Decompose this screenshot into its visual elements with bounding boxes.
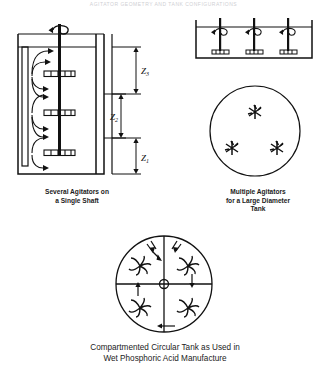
dimension-z3 [112, 47, 141, 94]
figure-several-agitators-single-shaft: Z3 Z2 Z1 [8, 14, 158, 184]
star-impeller-top [248, 105, 261, 119]
outlet-nozzle-icon [172, 241, 181, 253]
baffle [22, 47, 28, 166]
dimension-z1 [112, 138, 141, 174]
agitator-unit-2 [245, 18, 263, 54]
figure-page: AGITATOR GEOMETRY AND TANK CONFIGURATION… [0, 0, 327, 373]
page-header: AGITATOR GEOMETRY AND TANK CONFIGURATION… [0, 1, 327, 7]
curved-impeller-lower-left [129, 298, 151, 317]
figure-multiple-agitators-plan [203, 82, 307, 180]
curved-impeller-upper-left [129, 256, 151, 275]
curved-impeller-upper-right [177, 256, 199, 275]
circular-tank-outline [210, 86, 300, 176]
agitator-unit-3 [279, 18, 297, 54]
dimension-label-z3: Z3 [141, 66, 149, 77]
star-impeller-left [225, 141, 238, 155]
curved-impeller-lower-right [177, 298, 199, 317]
agitator-unit-1 [211, 18, 229, 54]
star-impeller-right [270, 141, 283, 155]
dimension-label-z1: Z1 [141, 153, 149, 164]
agitator-shaft [58, 24, 61, 156]
inlet-nozzle-icon [147, 241, 156, 253]
caption-multiple-agitators: Multiple Agitators for a Large Diameter … [196, 188, 320, 214]
flow-arrow-top [152, 251, 162, 261]
flow-arrow-bottom [157, 323, 175, 328]
dimension-label-z2: Z2 [110, 112, 118, 123]
figure-multiple-agitators-elevation [190, 16, 318, 64]
caption-compartmented-tank: Compartmented Circular Tank as Used in W… [40, 343, 290, 364]
figure-compartmented-circular-tank [88, 228, 240, 340]
flow-arrows-lower [32, 95, 49, 171]
flow-arrow-right [189, 274, 194, 288]
caption-several-agitators: Several Agitators on a Single Shaft [12, 188, 142, 205]
